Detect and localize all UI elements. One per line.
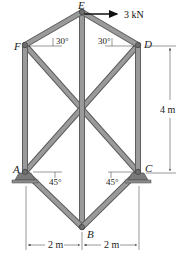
left-span-label: 2 m xyxy=(48,239,64,250)
height-dimension-label: 4 m xyxy=(160,104,176,115)
joint-pin-f xyxy=(22,42,27,47)
truss-members xyxy=(25,12,138,227)
angle-label-c: 45° xyxy=(106,177,119,187)
angle-label-a: 45° xyxy=(49,177,62,187)
joint-label-e: E xyxy=(77,0,85,11)
joint-label-c: C xyxy=(145,162,153,174)
truss-diagram: 30° 30° 45° 45° 3 kN E F D A C B 4 m 2 m… xyxy=(0,0,189,268)
angle-label-f: 30° xyxy=(56,36,69,46)
joint-label-d: D xyxy=(143,38,152,50)
joint-label-f: F xyxy=(13,40,21,52)
joint-pin-b xyxy=(79,224,84,229)
joint-label-a: A xyxy=(12,163,20,175)
joint-pin-a xyxy=(22,169,27,174)
load-label: 3 kN xyxy=(124,9,144,20)
joint-label-b: B xyxy=(87,228,94,240)
angle-label-d: 30° xyxy=(98,36,111,46)
joint-pin-c xyxy=(135,169,140,174)
member-fill xyxy=(25,12,82,45)
right-span-label: 2 m xyxy=(104,239,120,250)
joint-pin-d xyxy=(135,42,140,47)
